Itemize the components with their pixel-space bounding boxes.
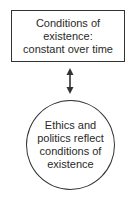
node-text-line: constant over time	[23, 43, 113, 56]
node-text-line: Conditions of	[36, 17, 100, 30]
node-text-line: conditions of	[40, 145, 102, 158]
ethics-and-politics-node: Ethics and politics reflect conditions o…	[26, 100, 115, 190]
conditions-of-existence-node: Conditions of existence: constant over t…	[11, 10, 125, 62]
node-text-line: Ethics and	[45, 119, 96, 132]
node-text-line: politics reflect	[37, 132, 104, 145]
double-headed-arrow-icon	[64, 67, 76, 95]
node-text-line: existence:	[43, 30, 93, 43]
node-text-line: existence	[47, 158, 93, 171]
